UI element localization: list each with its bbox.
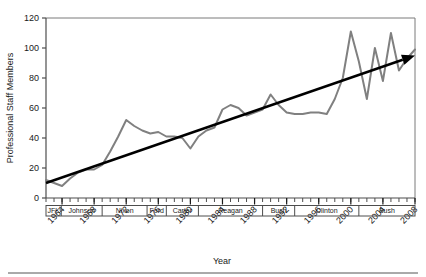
president-band-label: Bush (379, 207, 395, 214)
y-tick-label: 120 (24, 13, 39, 23)
y-axis-tick-labels: 020406080100120 (24, 13, 39, 203)
chart-figure: 020406080100120 Professional Staff Membe… (0, 0, 426, 277)
x-axis-title: Year (213, 256, 231, 266)
president-band-label: Johnson (68, 207, 95, 214)
y-tick-label: 40 (29, 133, 39, 143)
y-axis-title: Professional Staff Members (5, 52, 15, 163)
president-band-label: Bush (271, 207, 287, 214)
president-band-row: JFKJohnsonNixonFordCarterReaganBushClint… (46, 206, 415, 217)
president-band-label: Ford (149, 207, 164, 214)
y-tick-label: 20 (29, 163, 39, 173)
x-year-label: 2008 (398, 204, 419, 225)
plot-frame (46, 18, 415, 198)
y-tick-label: 100 (24, 43, 39, 53)
x-axis-minor-ticks (46, 198, 415, 205)
president-band-label: JFK (47, 207, 60, 214)
president-band-label: Clinton (316, 207, 338, 214)
line-chart-canvas: 020406080100120 Professional Staff Membe… (0, 0, 426, 277)
trend-line (46, 60, 403, 183)
president-band-label: Nixon (116, 207, 134, 214)
trend-arrow-group (46, 55, 415, 183)
y-tick-label: 60 (29, 103, 39, 113)
y-tick-label: 80 (29, 73, 39, 83)
y-tick-label: 0 (34, 193, 39, 203)
president-band-label: Reagan (218, 207, 243, 215)
president-band-label: Carter (173, 207, 193, 214)
